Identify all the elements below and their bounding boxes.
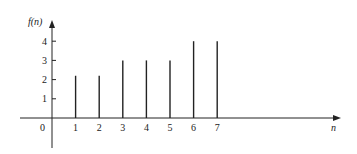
x-tick-label: 5 (168, 122, 173, 133)
x-ticks: 1234567 (73, 122, 220, 133)
y-ticks: 1234 (42, 36, 56, 105)
x-axis-arrow-icon (333, 115, 341, 121)
y-tick-label: 2 (42, 74, 47, 85)
x-tick-label: 7 (215, 122, 220, 133)
y-axis-label: f(n) (28, 16, 43, 28)
x-tick-label: 6 (191, 122, 196, 133)
stems (76, 41, 218, 118)
x-axis-label: n (331, 122, 336, 133)
y-tick-label: 3 (42, 55, 47, 66)
x-tick-label: 4 (144, 122, 149, 133)
x-tick-label: 3 (120, 122, 125, 133)
stem-chart: 1234 1234567 f(n) n 0 (0, 0, 357, 154)
x-tick-label: 2 (97, 122, 102, 133)
origin-label: 0 (40, 122, 45, 133)
y-tick-label: 1 (42, 93, 47, 104)
y-tick-label: 4 (42, 36, 47, 47)
y-axis-arrow-icon (49, 20, 55, 28)
x-tick-label: 1 (73, 122, 78, 133)
